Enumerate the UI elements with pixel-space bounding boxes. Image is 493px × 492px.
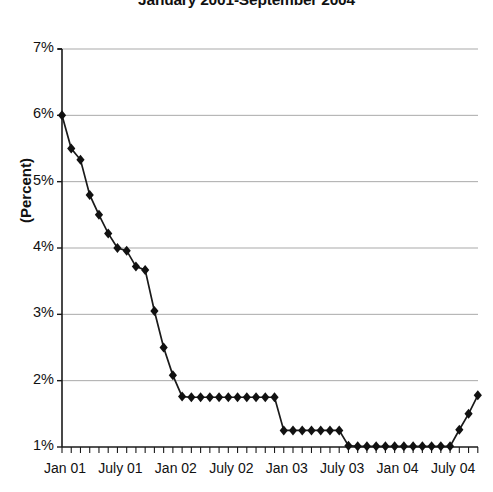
data-point — [197, 392, 205, 402]
plot-area — [0, 0, 493, 492]
data-point — [86, 190, 94, 200]
data-point — [95, 210, 103, 220]
data-point — [215, 392, 223, 402]
data-point — [233, 392, 241, 402]
data-point — [206, 392, 214, 402]
x-tick-label: July 04 — [413, 460, 493, 476]
data-point — [409, 441, 417, 451]
data-point — [243, 392, 251, 402]
data-line — [62, 115, 478, 446]
data-point — [224, 392, 232, 402]
data-markers — [58, 110, 482, 451]
data-point — [326, 425, 334, 435]
data-point — [141, 265, 149, 275]
data-point — [280, 425, 288, 435]
data-point — [372, 441, 380, 451]
data-point — [381, 441, 389, 451]
data-point — [298, 425, 306, 435]
data-point — [400, 441, 408, 451]
data-point — [474, 390, 482, 400]
data-point — [289, 425, 297, 435]
chart-figure: January 2001-September 2004 (Percent) 1%… — [0, 0, 493, 492]
data-point — [178, 392, 186, 402]
gridlines — [62, 49, 478, 381]
data-point — [418, 441, 426, 451]
data-point — [252, 392, 260, 402]
data-point — [437, 441, 445, 451]
data-point — [187, 392, 195, 402]
data-point — [391, 441, 399, 451]
data-point — [58, 110, 66, 120]
data-point — [307, 425, 315, 435]
data-point — [160, 343, 168, 353]
data-point — [428, 441, 436, 451]
data-point — [363, 441, 371, 451]
data-point — [317, 425, 325, 435]
data-point — [169, 370, 177, 380]
data-point — [261, 392, 269, 402]
data-point — [354, 441, 362, 451]
data-point — [270, 392, 278, 402]
